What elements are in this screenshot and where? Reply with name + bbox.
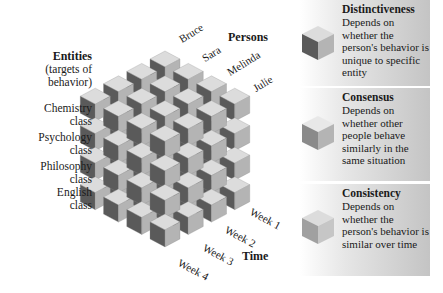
panel-title: Consistency (342, 187, 401, 199)
entity-label-line: Psychology (38, 131, 92, 144)
panel-consistency: Consistency Depends on whether the perso… (300, 184, 430, 276)
entity-label-philosophy: Philosophy class (40, 160, 92, 186)
entity-label-line: class (38, 144, 92, 157)
time-title: Time (242, 249, 268, 264)
entity-label-psychology: Psychology class (38, 131, 92, 157)
persons-title: Persons (228, 30, 268, 45)
panel-distinctiveness: Distinctiveness Depends on whether the p… (300, 0, 430, 86)
cube-icon-top-highlight (300, 114, 336, 152)
entities-subtitle-1: (targets of (45, 63, 92, 76)
panel-description: Depends on whether the person's behavior… (342, 200, 430, 250)
entity-label-line: class (40, 173, 92, 186)
entity-label-line: Chemistry (44, 102, 92, 115)
panel-consensus: Consensus Depends on whether other peopl… (300, 88, 430, 181)
panel-description: Depends on whether the person's behavior… (342, 16, 430, 79)
entity-label-english: English class (57, 186, 92, 212)
panel-description: Depends on whether other people behave s… (342, 104, 430, 167)
entities-title: Entities (45, 50, 92, 63)
entities-axis-header: Entities (targets of behavior) (45, 50, 92, 89)
panel-title: Distinctiveness (342, 3, 415, 15)
cube-icon-right-highlight (300, 208, 336, 246)
entity-label-line: English (57, 186, 92, 199)
entities-subtitle-2: behavior) (45, 76, 92, 89)
panel-title: Consensus (342, 91, 394, 103)
entity-label-chemistry: Chemistry class (44, 102, 92, 128)
entity-label-line: class (44, 115, 92, 128)
entity-label-line: Philosophy (40, 160, 92, 173)
entity-label-line: class (57, 199, 92, 212)
cube-icon-left-highlight (300, 24, 336, 62)
